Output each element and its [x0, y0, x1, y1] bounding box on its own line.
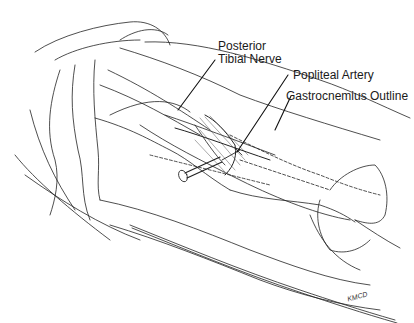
label-gastrocnemius-outline: Gastrocnemius Outline [286, 90, 408, 103]
gastrocnemius-outline-dashed [150, 135, 380, 195]
drape-folds [15, 22, 170, 240]
leader-lines [178, 60, 291, 152]
label-popliteal-artery: Popliteal Artery [293, 69, 374, 82]
foot [310, 165, 400, 270]
anatomical-illustration: Posterior Tibial Nerve Popliteal Artery … [0, 0, 414, 323]
leg-outline [95, 42, 410, 323]
leg-line-art [0, 0, 414, 323]
popliteal-dissection [165, 115, 275, 175]
label-line-2: Tibial Nerve [218, 53, 282, 66]
label-posterior-tibial-nerve: Posterior Tibial Nerve [218, 40, 282, 66]
